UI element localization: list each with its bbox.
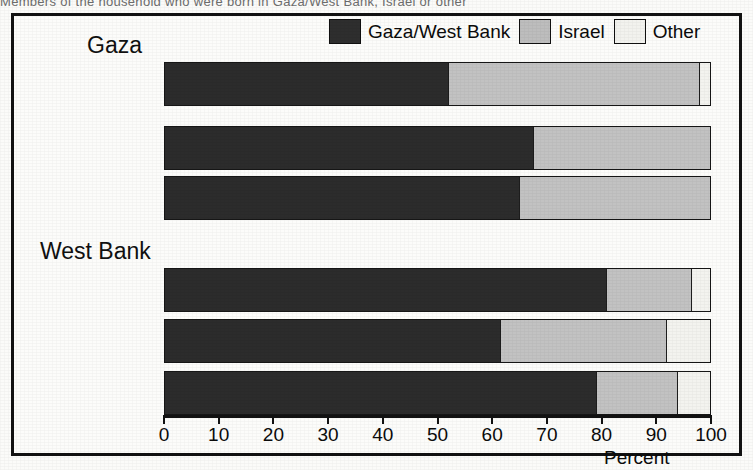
legend-item-israel: Israel: [519, 19, 604, 44]
axis-tick: [327, 415, 329, 424]
stacked-bar: [164, 319, 711, 363]
bar-segment-gaza-west-bank: [165, 372, 596, 414]
bar-segment-gaza-west-bank: [165, 320, 500, 362]
axis-tick-label: 80: [591, 424, 612, 446]
axis-tick: [710, 415, 712, 424]
bar-segment-gaza-west-bank: [165, 127, 533, 169]
stacked-bar: [164, 62, 711, 106]
bar-segment-israel: [519, 177, 710, 219]
bar-segment-other: [699, 63, 710, 105]
axis-tick: [491, 415, 493, 424]
bar-segment-other: [677, 372, 710, 414]
legend-label: Israel: [558, 21, 604, 43]
medium-swatch-icon: [519, 19, 551, 44]
stacked-bar: [164, 268, 711, 312]
legend-item-other: Other: [614, 19, 701, 44]
axis-tick: [272, 415, 274, 424]
axis-tick: [601, 415, 603, 424]
bar-segment-israel: [533, 127, 710, 169]
scan-cutoff-text: Members of the household who were born i…: [0, 0, 753, 11]
legend-label: Gaza/West Bank: [368, 21, 510, 43]
bar-segment-israel: [448, 63, 699, 105]
bar-segment-gaza-west-bank: [165, 63, 448, 105]
group-heading-gaza: Gaza: [87, 32, 142, 59]
axis-tick-label: 10: [208, 424, 229, 446]
axis-tick-label: 90: [646, 424, 667, 446]
axis-title: Percent: [604, 447, 669, 469]
bar-segment-israel: [606, 269, 690, 311]
plot-area: Gaza/West Bank Israel Other Gaza West Ba…: [14, 16, 739, 453]
axis-tick-label: 50: [427, 424, 448, 446]
bar-segment-israel: [500, 320, 666, 362]
axis-tick: [382, 415, 384, 424]
bar-segment-gaza-west-bank: [165, 269, 606, 311]
bar-segment-other: [691, 269, 710, 311]
chart-frame: Gaza/West Bank Israel Other Gaza West Ba…: [11, 13, 742, 456]
group-heading-west-bank: West Bank: [40, 238, 151, 265]
axis-tick: [546, 415, 548, 424]
bar-segment-other: [666, 320, 710, 362]
axis-tick-label: 30: [318, 424, 339, 446]
stacked-bar: [164, 126, 711, 170]
legend-label: Other: [653, 21, 701, 43]
legend-item-gaza-west-bank: Gaza/West Bank: [329, 19, 510, 44]
stacked-bar: [164, 176, 711, 220]
bar-segment-gaza-west-bank: [165, 177, 519, 219]
light-swatch-icon: [614, 19, 646, 44]
x-axis: 0102030405060708090100 Percent: [164, 415, 711, 453]
axis-tick-label: 0: [159, 424, 170, 446]
stacked-bar: [164, 371, 711, 415]
axis-tick: [163, 415, 165, 424]
axis-tick-label: 40: [372, 424, 393, 446]
axis-tick: [218, 415, 220, 424]
axis-tick-label: 60: [482, 424, 503, 446]
axis-tick: [437, 415, 439, 424]
axis-tick-label: 20: [263, 424, 284, 446]
dark-swatch-icon: [329, 19, 361, 44]
axis-tick: [655, 415, 657, 424]
axis-tick-label: 70: [536, 424, 557, 446]
legend: Gaza/West Bank Israel Other: [329, 19, 700, 44]
axis-tick-label: 100: [695, 424, 727, 446]
bar-segment-israel: [596, 372, 678, 414]
